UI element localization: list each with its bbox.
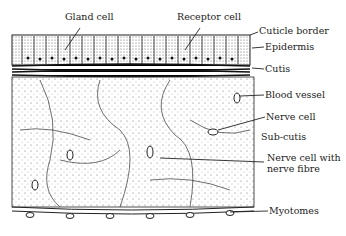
skin-section-diagram: Gland cell Receptor cell Cuticle border … <box>0 0 346 236</box>
label-myotomes: Myotomes <box>269 205 319 216</box>
label-nerve-cell: Nerve cell <box>266 111 316 122</box>
label-receptor-cell: Receptor cell <box>177 11 241 22</box>
label-gland-cell: Gland cell <box>65 11 114 22</box>
label-nerve-cell-with-fibre-line1: Nerve cell with <box>267 152 341 163</box>
label-epidermis: Epidermis <box>265 41 314 52</box>
label-cutis: Cutis <box>265 63 290 74</box>
label-blood-vessel: Blood vessel <box>265 89 325 100</box>
label-nerve-cell-with-fibre-line2: nerve fibre <box>267 163 320 174</box>
label-cuticle-border: Cuticle border <box>259 25 329 36</box>
label-sub-cutis: Sub-cutis <box>261 131 306 142</box>
